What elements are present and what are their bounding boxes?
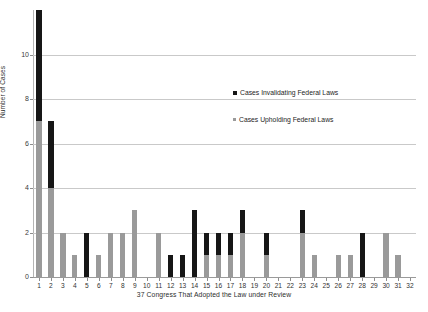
plot-area: 0246810 12345678910111213141516171819202… [33,10,416,278]
x-axis-tick-mark [362,278,363,281]
x-axis-tick-mark [75,278,76,281]
x-axis-tick-label: 12 [165,282,177,289]
bar-stack [204,233,209,278]
bar-stack [132,210,137,277]
bar-segment-upholding [300,233,305,278]
bar-stack [156,233,161,278]
x-axis-tick-mark [51,278,52,281]
bar-segment-invalidating [192,210,197,277]
x-axis-tick-mark [39,278,40,281]
bar-segment-upholding [348,255,353,277]
bar-segment-upholding [36,121,41,277]
y-axis-tick-label: 4 [13,184,29,191]
bar-segment-upholding [132,210,137,277]
x-axis-tick-mark [242,278,243,281]
x-axis-tick-label: 17 [225,282,237,289]
bar-segment-upholding [60,233,65,278]
bar-segment-upholding [108,233,113,278]
x-axis-tick-mark [123,278,124,281]
x-axis-tick-label: 10 [141,282,153,289]
x-axis-tick-label: 8 [117,282,129,289]
bar-segment-upholding [240,233,245,278]
bar-stack [360,233,365,278]
x-axis-tick-label: 13 [177,282,189,289]
x-axis-tick-mark [302,278,303,281]
x-axis-tick-label: 6 [93,282,105,289]
bar-stack [240,210,245,277]
bar-stack [120,233,125,278]
x-axis-tick-label: 26 [332,282,344,289]
bar-segment-invalidating [48,121,53,188]
x-axis-tick-mark [278,278,279,281]
x-axis-tick-mark [171,278,172,281]
x-axis-tick-mark [99,278,100,281]
x-axis-tick-mark [63,278,64,281]
y-axis-tick-label: 2 [13,229,29,236]
bar-stack [72,255,77,277]
bar-stack [168,255,173,277]
bar-segment-upholding [336,255,341,277]
bar-stack [48,121,53,277]
x-axis-tick-mark [290,278,291,281]
bar-segment-invalidating [36,10,41,121]
bar-chart: Number of Cases 0246810 1234567891011121… [0,0,428,312]
bar-stack [180,255,185,277]
bar-segment-invalidating [360,233,365,278]
y-axis-tick-label: 0 [13,273,29,280]
x-axis-tick-label: 21 [272,282,284,289]
x-axis-tick-label: 11 [153,282,165,289]
x-axis-tick-mark [326,278,327,281]
x-axis-tick-label: 3 [57,282,69,289]
bar-stack [300,210,305,277]
x-axis-tick-label: 2 [45,282,57,289]
x-axis-tick-label: 30 [380,282,392,289]
bar-stack [312,255,317,277]
bar-segment-upholding [383,233,388,278]
bar-stack [216,233,221,278]
legend-swatch-upholding-icon [233,118,236,121]
x-axis-tick-mark [183,278,184,281]
bar-segment-upholding [96,255,101,277]
bar-stack [264,233,269,278]
y-axis-title: Number of Cases [0,66,6,118]
legend-swatch-invalidating-icon [233,91,237,95]
legend-label-upholding: Cases Upholding Federal Laws [239,116,333,123]
x-axis-tick-label: 32 [404,282,416,289]
y-axis-tick-label: 6 [13,140,29,147]
bar-segment-upholding [395,255,400,277]
x-axis-tick-label: 15 [201,282,213,289]
bar-segment-upholding [120,233,125,278]
x-axis-tick-mark [386,278,387,281]
bar-segment-upholding [204,255,209,277]
x-axis-baseline [33,277,416,278]
bar-segment-invalidating [168,255,173,277]
bar-segment-invalidating [240,210,245,232]
bar-series-container [33,10,416,277]
bar-segment-invalidating [300,210,305,232]
bar-stack [84,233,89,278]
x-axis-title: 37 Congress That Adopted the Law under R… [0,291,428,298]
x-axis-tick-label: 1 [33,282,45,289]
bar-segment-invalidating [216,233,221,255]
bar-stack [348,255,353,277]
x-axis-tick-mark [350,278,351,281]
x-axis-tick-mark [111,278,112,281]
y-axis-tick-label: 10 [13,51,29,58]
bar-segment-upholding [228,255,233,277]
x-axis-tick-label: 18 [236,282,248,289]
bar-segment-upholding [312,255,317,277]
bar-stack [36,10,41,277]
bar-stack [228,233,233,278]
x-axis-tick-label: 22 [284,282,296,289]
bar-segment-upholding [216,255,221,277]
bar-segment-invalidating [228,233,233,255]
legend-label-invalidating: Cases Invalidating Federal Laws [240,89,338,96]
x-axis-tick-mark [410,278,411,281]
x-axis-tick-label: 16 [213,282,225,289]
bar-segment-upholding [48,188,53,277]
x-axis-tick-label: 9 [129,282,141,289]
legend-item-upholding: Cases Upholding Federal Laws [233,116,333,123]
x-axis-tick-mark [135,278,136,281]
bar-segment-upholding [72,255,77,277]
x-axis-tick-label: 27 [344,282,356,289]
